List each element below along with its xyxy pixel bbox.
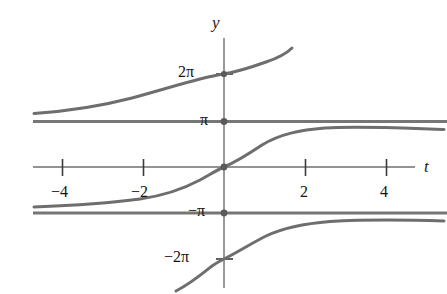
tick-label-negative-pi: −π xyxy=(188,203,205,219)
tick-label-negative-4: −4 xyxy=(51,184,68,200)
tick-label-2pi: 2π xyxy=(178,64,194,80)
tick-label-2: 2 xyxy=(300,184,308,200)
curve-lower-branch xyxy=(176,220,444,291)
tick-label-pi: π xyxy=(200,112,208,128)
dot-pi-intercept xyxy=(221,118,228,125)
tick-label-negative-2pi: −2π xyxy=(164,249,189,265)
curve-upper-branch xyxy=(34,48,292,114)
dot-origin xyxy=(221,164,228,171)
dot-negative-pi-intercept xyxy=(221,210,228,217)
tick-label-negative-2: −2 xyxy=(131,184,148,200)
dot-2pi-intercept xyxy=(221,71,227,77)
plot-canvas xyxy=(0,0,447,294)
y-axis-label: y xyxy=(212,14,220,31)
t-axis-label: t xyxy=(424,158,429,175)
plot-figure: y t 2π π −π −2π −4 −2 2 4 xyxy=(0,0,447,294)
tick-label-4: 4 xyxy=(380,184,388,200)
